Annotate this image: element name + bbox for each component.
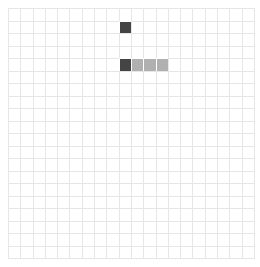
grid-cell[interactable] — [180, 96, 192, 109]
grid-cell[interactable] — [156, 83, 168, 96]
grid-cell[interactable] — [168, 183, 180, 196]
grid-cell[interactable] — [205, 158, 217, 171]
grid-cell[interactable] — [217, 46, 229, 59]
grid-cell[interactable] — [143, 171, 155, 184]
grid-cell[interactable] — [192, 133, 204, 146]
grid-cell[interactable] — [8, 196, 20, 209]
grid-cell[interactable] — [69, 158, 81, 171]
grid-cell[interactable] — [57, 8, 69, 21]
grid-cell[interactable] — [180, 83, 192, 96]
grid-cell[interactable] — [205, 121, 217, 134]
grid-cell[interactable] — [20, 233, 32, 246]
grid-cell[interactable] — [180, 233, 192, 246]
grid-cell[interactable] — [33, 183, 45, 196]
grid-cell[interactable] — [57, 133, 69, 146]
grid-cell[interactable] — [94, 196, 106, 209]
grid-cell[interactable] — [192, 21, 204, 34]
grid-cell[interactable] — [217, 96, 229, 109]
grid-cell[interactable] — [82, 83, 94, 96]
grid-cell[interactable] — [45, 71, 57, 84]
grid-cell[interactable] — [94, 233, 106, 246]
grid-cell[interactable] — [192, 33, 204, 46]
grid-cell[interactable] — [33, 96, 45, 109]
grid-cell[interactable] — [57, 21, 69, 34]
grid-cell[interactable] — [119, 221, 131, 234]
grid-cell[interactable] — [229, 21, 241, 34]
grid-cell[interactable] — [33, 121, 45, 134]
grid-cell[interactable] — [33, 146, 45, 159]
grid-cell[interactable] — [143, 8, 155, 21]
grid-cell[interactable] — [33, 21, 45, 34]
grid-cell[interactable] — [20, 21, 32, 34]
grid-cell[interactable] — [192, 158, 204, 171]
grid-cell[interactable] — [20, 196, 32, 209]
grid-cell[interactable] — [205, 83, 217, 96]
grid-cell[interactable] — [33, 83, 45, 96]
grid-cell[interactable] — [8, 221, 20, 234]
grid-cell[interactable] — [229, 196, 241, 209]
grid-cell[interactable] — [33, 133, 45, 146]
grid-cell[interactable] — [119, 96, 131, 109]
grid-cell[interactable] — [217, 133, 229, 146]
grid-cell[interactable] — [229, 158, 241, 171]
grid-cell[interactable] — [217, 183, 229, 196]
grid-cell[interactable] — [82, 246, 94, 259]
grid-cell[interactable] — [82, 96, 94, 109]
grid-cell[interactable] — [8, 208, 20, 221]
grid-cell[interactable] — [45, 83, 57, 96]
grid-cell[interactable] — [33, 246, 45, 259]
grid-cell[interactable] — [33, 171, 45, 184]
grid-cell[interactable] — [156, 233, 168, 246]
grid-cell[interactable] — [106, 83, 118, 96]
grid-cell[interactable] — [33, 108, 45, 121]
grid-cell[interactable] — [229, 58, 241, 71]
grid-cell[interactable] — [217, 83, 229, 96]
grid-cell[interactable] — [229, 221, 241, 234]
grid-cell[interactable] — [33, 158, 45, 171]
grid-cell[interactable] — [57, 58, 69, 71]
grid-cell[interactable] — [168, 246, 180, 259]
grid-cell[interactable] — [106, 33, 118, 46]
grid-cell[interactable] — [192, 108, 204, 121]
grid-cell[interactable] — [119, 71, 131, 84]
grid-cell[interactable] — [217, 71, 229, 84]
grid-cell[interactable] — [8, 83, 20, 96]
grid-cell[interactable] — [131, 133, 143, 146]
grid-cell[interactable] — [57, 83, 69, 96]
grid-cell[interactable] — [94, 158, 106, 171]
grid-cell[interactable] — [192, 171, 204, 184]
grid-cell[interactable] — [8, 183, 20, 196]
grid-cell[interactable] — [82, 21, 94, 34]
grid-cell[interactable] — [205, 46, 217, 59]
grid-cell[interactable] — [57, 96, 69, 109]
grid-cell[interactable] — [20, 8, 32, 21]
grid-cell[interactable] — [82, 221, 94, 234]
grid-cell[interactable] — [242, 221, 254, 234]
grid-cell[interactable] — [20, 133, 32, 146]
grid-cell[interactable] — [20, 121, 32, 134]
grid-cell[interactable] — [131, 158, 143, 171]
grid-cell-dark[interactable] — [119, 21, 131, 34]
grid-cell[interactable] — [168, 33, 180, 46]
grid-cell[interactable] — [82, 158, 94, 171]
grid-cell[interactable] — [192, 208, 204, 221]
grid-cell[interactable] — [143, 108, 155, 121]
grid-cell[interactable] — [131, 83, 143, 96]
grid-cell[interactable] — [205, 246, 217, 259]
grid-cell[interactable] — [69, 83, 81, 96]
grid-cell[interactable] — [106, 21, 118, 34]
grid-cell[interactable] — [119, 108, 131, 121]
grid-cell[interactable] — [8, 146, 20, 159]
grid-cell[interactable] — [94, 58, 106, 71]
grid-cell[interactable] — [119, 8, 131, 21]
grid-cell[interactable] — [57, 171, 69, 184]
grid-cell[interactable] — [20, 33, 32, 46]
grid-cell[interactable] — [156, 196, 168, 209]
grid-cell[interactable] — [33, 196, 45, 209]
grid-cell[interactable] — [168, 146, 180, 159]
grid-cell[interactable] — [242, 183, 254, 196]
grid-cell[interactable] — [20, 83, 32, 96]
grid-cell[interactable] — [8, 246, 20, 259]
grid-cell[interactable] — [242, 8, 254, 21]
grid-cell[interactable] — [82, 171, 94, 184]
